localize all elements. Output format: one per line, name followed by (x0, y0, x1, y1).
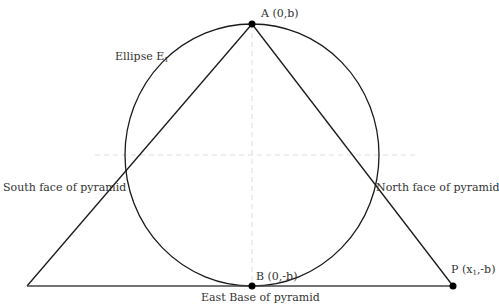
label-p-suffix: ,-b) (477, 263, 496, 276)
north-face-line (252, 24, 453, 286)
label-north-face: North face of pyramid (376, 181, 499, 194)
label-east-base: East Base of pyramid (201, 291, 320, 304)
label-point-b: B (0,-b) (256, 270, 297, 283)
pyramid-ellipse-diagram: A (0,b) Ellipse E1 South face of pyramid… (0, 0, 499, 304)
label-apex: A (0,b) (260, 7, 299, 20)
point-p (450, 283, 457, 290)
label-p-prefix: P (x (451, 263, 473, 276)
label-ellipse-main: Ellipse E (115, 50, 164, 63)
label-ellipse: Ellipse E1 (115, 50, 169, 64)
point-b (249, 283, 256, 290)
label-ellipse-sub: 1 (164, 56, 168, 64)
label-south-face: South face of pyramid (3, 181, 126, 194)
south-face-line (27, 24, 252, 286)
label-point-p: P (x1,-b) (451, 263, 495, 277)
point-a (249, 21, 256, 28)
